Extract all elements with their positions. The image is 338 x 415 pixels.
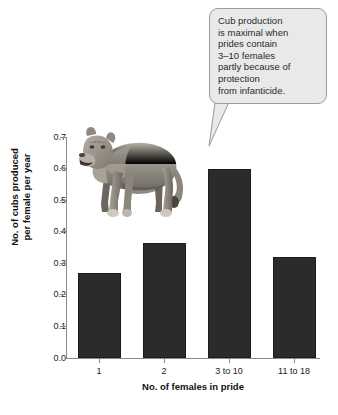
x-tick-label-3: 3 to 10 bbox=[199, 366, 259, 376]
x-tick-mark bbox=[164, 358, 165, 363]
x-tick-label-4: 11 to 18 bbox=[264, 366, 324, 376]
y-axis-title: No. of cubs produced per female per year bbox=[9, 102, 33, 292]
x-tick-mark bbox=[229, 358, 230, 363]
bar-2 bbox=[143, 243, 186, 358]
y-tick-mark bbox=[60, 231, 66, 232]
bar-4 bbox=[273, 257, 316, 358]
y-tick-mark bbox=[60, 168, 66, 169]
x-axis-title: No. of females in pride bbox=[66, 381, 320, 392]
y-tick-mark bbox=[60, 326, 66, 327]
bar-3 bbox=[208, 169, 251, 358]
x-tick-mark bbox=[294, 358, 295, 363]
y-tick-label: 0.0 bbox=[26, 354, 66, 363]
x-tick-mark bbox=[99, 358, 100, 363]
y-tick-0.1: 0.1 bbox=[0, 322, 66, 331]
x-axis-line bbox=[66, 358, 320, 359]
y-tick-mark bbox=[60, 200, 66, 201]
x-tick-label-2: 2 bbox=[134, 366, 194, 376]
x-tick-label-1: 1 bbox=[69, 366, 129, 376]
callout-annotation: Cub production is maximal when prides co… bbox=[209, 8, 327, 104]
bar-1 bbox=[78, 273, 121, 358]
y-tick-mark bbox=[60, 137, 66, 138]
y-tick-0.0: 0.0 bbox=[0, 354, 66, 363]
y-tick-mark bbox=[60, 294, 66, 295]
y-tick-mark bbox=[60, 263, 66, 264]
bar-chart-figure: 0.7 0.6 0.5 0.4 0.3 0.2 0.1 0.0 No. of c… bbox=[0, 0, 338, 415]
y-axis-line bbox=[66, 137, 67, 359]
lioness-illustration bbox=[70, 116, 194, 222]
